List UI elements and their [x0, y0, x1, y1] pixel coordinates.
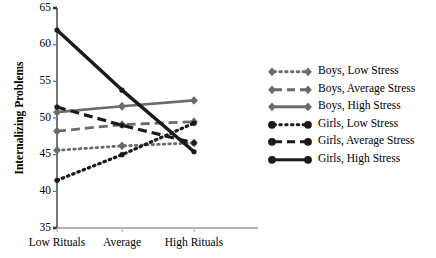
legend-marker — [304, 103, 312, 112]
y-axis-tick-label: 60 — [29, 38, 51, 50]
legend-marker-icon — [267, 99, 313, 112]
legend-marker — [268, 67, 276, 76]
legend-marker-icon — [267, 82, 313, 95]
y-axis-tick-label: 65 — [29, 2, 51, 14]
data-point — [191, 149, 196, 154]
legend-item[interactable]: Girls, Average Stress — [267, 134, 415, 147]
data-point — [191, 140, 196, 145]
y-axis-tick-label: 40 — [29, 185, 51, 197]
legend-marker-icon — [267, 152, 313, 165]
legend-item-label: Girls, Average Stress — [313, 134, 415, 147]
y-axis-tick-label: 55 — [29, 75, 51, 87]
data-point — [119, 88, 124, 93]
legend-marker — [304, 85, 312, 94]
series-line — [57, 123, 194, 180]
legend-marker — [304, 156, 312, 164]
legend-marker-icon — [267, 117, 313, 130]
legend-marker — [268, 85, 276, 94]
data-point — [190, 96, 198, 105]
legend-marker — [304, 121, 312, 129]
chart-figure: Internalizing Problems 65605550454035Low… — [0, 0, 436, 258]
chart-plot-area: Internalizing Problems 65605550454035Low… — [0, 0, 262, 258]
legend-marker — [304, 138, 312, 146]
y-axis-tick-label: 35 — [29, 222, 51, 234]
y-axis-tick-label: 50 — [29, 112, 51, 124]
legend-marker-icon — [267, 134, 313, 147]
series-5 — [57, 107, 194, 143]
data-point — [119, 123, 124, 128]
series-line — [57, 143, 194, 150]
legend-marker — [268, 121, 276, 129]
legend-item[interactable]: Boys, Low Stress — [267, 64, 415, 77]
data-point — [119, 152, 124, 157]
legend-marker — [268, 103, 276, 112]
legend-marker — [268, 138, 276, 146]
legend-item-label: Boys, Low Stress — [313, 64, 399, 77]
data-point — [191, 121, 196, 126]
legend-marker-icon — [267, 64, 313, 77]
data-point — [53, 146, 61, 155]
legend-item-label: Girls, High Stress — [313, 152, 400, 165]
data-point — [54, 104, 59, 109]
data-point — [54, 27, 59, 32]
chart-legend: Boys, Low StressBoys, Average StressBoys… — [267, 64, 415, 165]
x-axis-tick-label: High Rituals — [139, 236, 249, 248]
series-line — [57, 107, 194, 143]
data-point — [118, 141, 126, 150]
legend-marker — [268, 156, 276, 164]
data-point — [118, 102, 126, 111]
series-6 — [57, 30, 194, 152]
legend-item-label: Girls, Low Stress — [313, 117, 398, 130]
series-line — [57, 30, 194, 152]
data-point — [53, 127, 61, 136]
data-point — [54, 178, 59, 183]
legend-item-label: Boys, Average Stress — [313, 82, 415, 95]
y-axis-tick-label: 45 — [29, 148, 51, 160]
legend-item[interactable]: Girls, High Stress — [267, 152, 415, 165]
legend-item[interactable]: Boys, Average Stress — [267, 82, 415, 95]
legend-item-label: Boys, High Stress — [313, 99, 401, 112]
series-4 — [57, 123, 194, 180]
series-1 — [57, 143, 194, 150]
legend-item[interactable]: Girls, Low Stress — [267, 117, 415, 130]
legend-marker — [304, 67, 312, 76]
legend-item[interactable]: Boys, High Stress — [267, 99, 415, 112]
